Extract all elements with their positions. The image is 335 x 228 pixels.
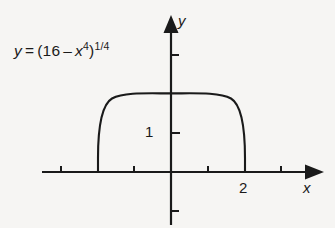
equation-equals: = <box>25 42 34 59</box>
equation-annotation: y=(16–x4)1/4 <box>14 41 110 59</box>
y-axis-label: y <box>178 13 186 28</box>
y-axis-ticks <box>171 55 180 211</box>
x-axis-label: x <box>303 180 311 195</box>
y-axis-arrowhead <box>164 15 179 33</box>
equation-minus: – <box>63 42 72 59</box>
equation-base: 16 <box>43 42 61 59</box>
equation-x-var: x <box>75 42 83 59</box>
equation-lhs: y <box>14 42 22 59</box>
function-plot-figure: y=(16–x4)1/4 y x 1 2 <box>0 0 335 228</box>
equation-outer-exponent: 1/4 <box>94 40 109 52</box>
x-tick-label-2: 2 <box>239 180 247 195</box>
plot-canvas <box>0 0 335 228</box>
y-tick-label-1: 1 <box>145 124 153 139</box>
x-axis-arrowhead <box>305 165 324 180</box>
